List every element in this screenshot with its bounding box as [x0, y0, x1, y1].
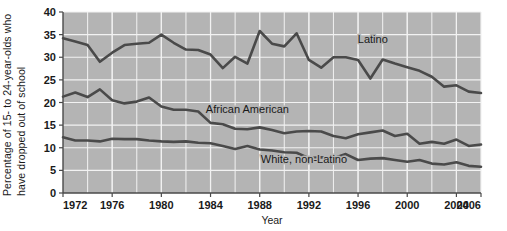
y-tick-label: 10: [44, 142, 56, 154]
y-tick-label: 30: [44, 51, 56, 63]
y-tick-label: 20: [44, 97, 56, 109]
y-tick-label: 0: [50, 187, 56, 199]
y-axis-label-line2: have dropped out of school: [15, 67, 27, 196]
y-tick-label: 35: [44, 29, 56, 41]
y-axis-label-line1: Percentage of 15- to 24-year-olds who: [1, 14, 13, 196]
x-tick-label: 1984: [198, 199, 223, 211]
series-label-latino: Latino: [358, 33, 388, 45]
chart-figure: 0510152025303540 19721976198019841988199…: [0, 0, 507, 231]
x-tick-label: 1972: [63, 199, 87, 211]
dropout-rate-line-chart: 0510152025303540 19721976198019841988199…: [0, 0, 507, 231]
x-tick-label: 2006: [457, 199, 481, 211]
y-tick-label: 40: [44, 6, 56, 18]
series-label-african-american: African American: [206, 103, 289, 115]
x-tick-label: 1976: [100, 199, 124, 211]
series-label-white-non-latino: White, non-Latino: [261, 153, 347, 165]
x-tick-label: 1980: [149, 199, 173, 211]
x-tick-label: 1992: [297, 199, 321, 211]
x-axis-label: Year: [261, 214, 283, 226]
x-tick-label: 1996: [346, 199, 370, 211]
y-tick-label: 15: [44, 119, 56, 131]
x-tick-label: 1988: [247, 199, 271, 211]
x-tick-label: 2000: [395, 199, 419, 211]
y-tick-label: 5: [50, 164, 56, 176]
y-tick-label: 25: [44, 74, 56, 86]
